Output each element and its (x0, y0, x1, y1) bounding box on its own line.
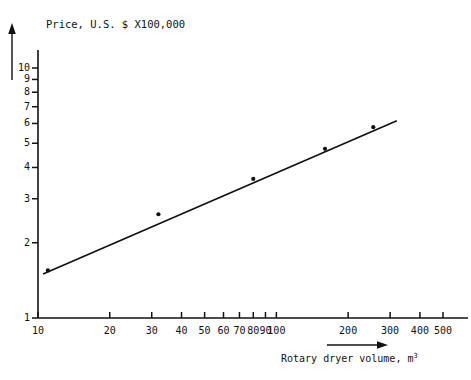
y-tick-label-4: 4 (10, 161, 30, 172)
x-axis-label-text: Rotary dryer volume, m (281, 353, 413, 364)
data-point-2 (156, 212, 160, 216)
x-tick-label-500: 500 (431, 325, 456, 336)
x-tick-label-30: 30 (143, 325, 161, 336)
y-tick-label-3: 3 (10, 193, 30, 204)
y-tick-label-7: 7 (10, 101, 30, 112)
x-axis-label-exponent: 3 (413, 352, 417, 360)
x-tick-label-40: 40 (172, 325, 190, 336)
y-tick-label-8: 8 (10, 86, 30, 97)
log-log-price-chart (0, 0, 471, 380)
x-tick-label-300: 300 (378, 325, 403, 336)
y-tick-label-6: 6 (10, 117, 30, 128)
y-tick-label-1: 1 (10, 312, 30, 323)
data-point-5 (371, 125, 375, 129)
x-tick-label-100: 100 (264, 325, 289, 336)
x-tick-label-50: 50 (195, 325, 213, 336)
chart-title: Price, U.S. $ X100,000 (46, 18, 185, 30)
x-tick-label-200: 200 (336, 325, 361, 336)
data-point-1 (46, 268, 50, 272)
data-point-3 (251, 177, 255, 181)
x-tick-label-20: 20 (101, 325, 119, 336)
y-tick-label-10: 10 (10, 62, 30, 73)
x-axis-label: Rotary dryer volume, m3 (281, 352, 418, 364)
y-tick-label-9: 9 (10, 73, 30, 84)
x-tick-label-10: 10 (29, 325, 47, 336)
y-tick-label-2: 2 (10, 237, 30, 248)
data-point-4 (323, 147, 327, 151)
x-tick-label-400: 400 (408, 325, 433, 336)
y-tick-label-5: 5 (10, 137, 30, 148)
